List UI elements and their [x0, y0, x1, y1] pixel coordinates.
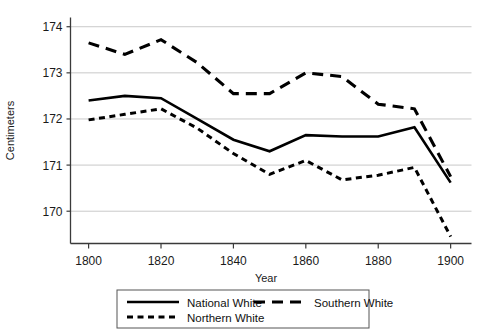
y-axis-tick-label: 170 — [42, 205, 62, 219]
x-axis-tick-label: 1820 — [148, 254, 175, 268]
legend-label-national-white: National White — [187, 297, 262, 309]
series-line-northern-white — [89, 109, 451, 237]
x-axis-tick-label: 1800 — [75, 254, 102, 268]
x-axis-tick-label: 1880 — [365, 254, 392, 268]
y-axis-tick-label: 174 — [42, 20, 62, 34]
x-axis-tick-label: 1860 — [292, 254, 319, 268]
line-chart: 170171172173174180018201840186018801900Y… — [0, 0, 484, 334]
x-axis-tick-label: 1840 — [220, 254, 247, 268]
x-axis-tick-label: 1900 — [437, 254, 464, 268]
chart-canvas: 170171172173174180018201840186018801900Y… — [0, 0, 484, 334]
y-axis-tick-label: 173 — [42, 66, 62, 80]
x-axis-title: Year — [255, 272, 278, 284]
series-line-national-white — [89, 96, 451, 183]
y-axis-tick-label: 172 — [42, 112, 62, 126]
series-line-southern-white — [89, 40, 451, 177]
y-axis-title: Centimeters — [4, 100, 16, 160]
legend-label-northern-white: Northern White — [187, 312, 264, 324]
y-axis-tick-label: 171 — [42, 159, 62, 173]
legend-label-southern-white: Southern White — [314, 297, 393, 309]
